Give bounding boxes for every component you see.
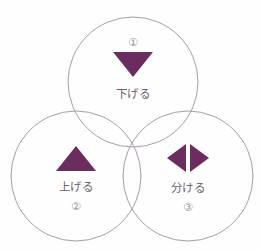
group-label-right: 分ける [171, 181, 206, 195]
venn-group-right[interactable]: 分ける ③ [128, 144, 248, 214]
venn-group-top[interactable]: ① 下げる [73, 36, 193, 101]
group-number-right: ③ [183, 201, 193, 214]
triangle-down-icon [113, 52, 153, 81]
group-number-left: ② [71, 200, 81, 213]
group-label-top: 下げる [116, 87, 151, 101]
group-label-left: 上げる [59, 180, 94, 194]
venn-diagram: ① 下げる 上げる ② [0, 0, 260, 251]
venn-group-left[interactable]: 上げる ② [16, 146, 136, 213]
split-arrows-icon [167, 144, 209, 176]
triangle-up-icon [56, 146, 96, 175]
group-number-top: ① [128, 36, 138, 49]
